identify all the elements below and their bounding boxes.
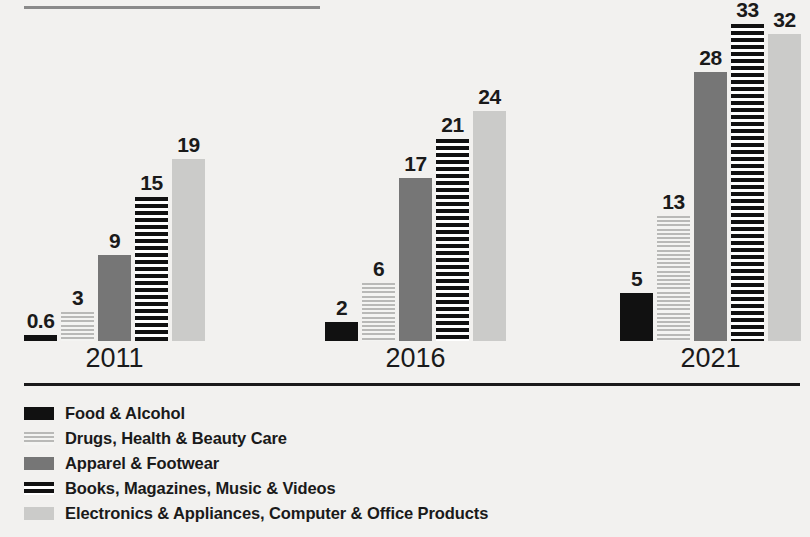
bar-item[interactable]: 3 <box>61 312 94 341</box>
legend-item[interactable]: Drugs, Health & Beauty Care <box>24 426 794 451</box>
bar-rect[interactable] <box>24 335 57 341</box>
bar-item[interactable]: 5 <box>620 293 653 341</box>
legend-item[interactable]: Food & Alcohol <box>24 401 794 426</box>
legend-item-label: Apparel & Footwear <box>65 455 219 472</box>
bar-value-label: 17 <box>404 153 426 174</box>
bar-value-label: 5 <box>631 268 642 289</box>
legend-item-label: Drugs, Health & Beauty Care <box>65 430 287 447</box>
solid-light-gray-swatch <box>24 507 54 520</box>
bar-value-label: 19 <box>177 134 199 155</box>
bar-rect[interactable] <box>172 159 205 341</box>
bar-item[interactable]: 17 <box>399 178 432 341</box>
chart-legend: Food & AlcoholDrugs, Health & Beauty Car… <box>24 401 794 526</box>
fine-light-stripes-swatch <box>24 432 54 445</box>
legend-divider-rule <box>24 383 800 386</box>
bar-value-label: 28 <box>699 47 721 68</box>
legend-item-label: Food & Alcohol <box>65 405 185 422</box>
chart-canvas: 0.639151920112617212420165132833322021 F… <box>0 0 810 537</box>
bar-rect[interactable] <box>694 72 727 341</box>
bar-item[interactable]: 2 <box>325 322 358 341</box>
bar-value-label: 6 <box>373 258 384 279</box>
plot-area: 0.639151920112617212420165132833322021 <box>0 0 810 384</box>
legend-item[interactable]: Books, Magazines, Music & Videos <box>24 476 794 501</box>
bar-value-label: 2 <box>336 297 347 318</box>
bar-value-label: 24 <box>478 86 500 107</box>
bar-group-bars: 0.6391519 <box>24 159 205 341</box>
bar-rect[interactable] <box>325 322 358 341</box>
bar-value-label: 3 <box>72 287 83 308</box>
bar-rect[interactable] <box>135 197 168 341</box>
bar-rect[interactable] <box>731 24 764 341</box>
bar-item[interactable]: 19 <box>172 159 205 341</box>
bar-value-label: 32 <box>773 9 795 30</box>
bar-value-label: 33 <box>736 0 758 20</box>
legend-item[interactable]: Electronics & Appliances, Computer & Off… <box>24 501 794 526</box>
bar-item[interactable]: 21 <box>436 139 469 341</box>
bar-rect[interactable] <box>768 34 801 341</box>
bar-rect[interactable] <box>620 293 653 341</box>
x-axis-tick-label: 2016 <box>325 345 506 372</box>
bar-item[interactable]: 13 <box>657 216 690 341</box>
bar-item[interactable]: 33 <box>731 24 764 341</box>
solid-medium-gray-swatch <box>24 457 54 470</box>
bar-item[interactable]: 0.6 <box>24 335 57 341</box>
x-axis-tick-label: 2021 <box>620 345 801 372</box>
legend-item-label: Electronics & Appliances, Computer & Off… <box>65 505 488 522</box>
bar-rect[interactable] <box>61 312 94 341</box>
bar-group-bars: 26172124 <box>325 111 506 341</box>
bar-rect[interactable] <box>657 216 690 341</box>
bar-rect[interactable] <box>362 283 395 341</box>
bar-item[interactable]: 28 <box>694 72 727 341</box>
bar-group-bars: 513283332 <box>620 24 801 341</box>
x-axis-tick-label: 2011 <box>24 345 205 372</box>
bar-value-label: 9 <box>109 230 120 251</box>
legend-item-label: Books, Magazines, Music & Videos <box>65 480 336 497</box>
bar-rect[interactable] <box>473 111 506 341</box>
bar-value-label: 15 <box>140 172 162 193</box>
bar-value-label: 21 <box>441 114 463 135</box>
bold-black-stripes-swatch <box>24 482 54 495</box>
bar-rect[interactable] <box>98 255 131 341</box>
bar-item[interactable]: 15 <box>135 197 168 341</box>
bar-item[interactable]: 32 <box>768 34 801 341</box>
legend-item[interactable]: Apparel & Footwear <box>24 451 794 476</box>
solid-black-swatch <box>24 407 54 420</box>
bar-rect[interactable] <box>399 178 432 341</box>
bar-rect[interactable] <box>436 139 469 341</box>
bar-item[interactable]: 24 <box>473 111 506 341</box>
bar-item[interactable]: 6 <box>362 283 395 341</box>
bar-value-label: 0.6 <box>27 310 55 331</box>
bar-item[interactable]: 9 <box>98 255 131 341</box>
bar-value-label: 13 <box>662 191 684 212</box>
